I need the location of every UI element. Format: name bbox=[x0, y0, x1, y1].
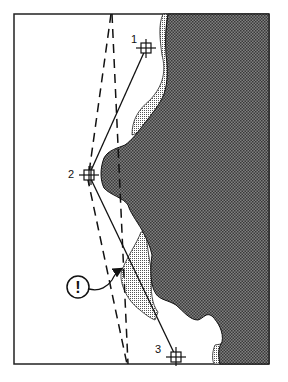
waypoint-label: 3 bbox=[155, 343, 161, 355]
waypoint-label: 2 bbox=[68, 168, 74, 180]
waypoint-label: 1 bbox=[131, 33, 137, 45]
diagram-canvas: 1 2 3 ! bbox=[0, 0, 288, 382]
warning-symbol: ! bbox=[75, 279, 80, 296]
